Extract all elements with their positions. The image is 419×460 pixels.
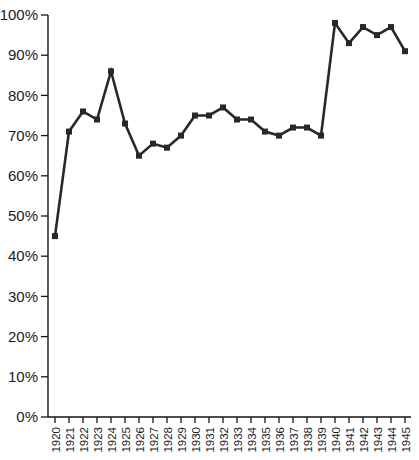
data-point (192, 113, 198, 119)
x-axis-label: 1933 (232, 427, 244, 453)
data-point (206, 113, 212, 119)
x-axis-label: 1927 (148, 427, 160, 453)
line-chart-figure: 0%10%20%30%40%50%60%70%80%90%100%1920192… (0, 0, 419, 460)
chart-svg: 0%10%20%30%40%50%60%70%80%90%100%1920192… (0, 0, 419, 460)
data-point (164, 145, 170, 151)
data-point (360, 24, 366, 30)
data-point (66, 129, 72, 135)
x-axis-label: 1926 (134, 427, 146, 453)
y-axis-label: 30% (8, 288, 38, 305)
data-point (136, 153, 142, 159)
x-axis-label: 1930 (190, 427, 202, 453)
data-point (304, 125, 310, 131)
y-axis-label: 40% (8, 247, 38, 264)
data-point (150, 141, 156, 147)
data-point (388, 24, 394, 30)
data-point (262, 129, 268, 135)
data-point (276, 133, 282, 139)
data-point (318, 133, 324, 139)
data-point (108, 68, 114, 74)
y-axis-label: 20% (8, 328, 38, 345)
data-point (248, 117, 254, 123)
y-axis-label: 100% (0, 6, 38, 23)
data-point (290, 125, 296, 131)
y-axis-label: 0% (16, 408, 38, 425)
x-axis-label: 1921 (64, 427, 76, 453)
x-axis-label: 1937 (288, 427, 300, 453)
y-axis-label: 10% (8, 368, 38, 385)
data-point (52, 233, 58, 239)
x-axis-label: 1935 (260, 427, 272, 453)
x-axis-label: 1940 (330, 427, 342, 453)
x-axis-label: 1936 (274, 427, 286, 453)
data-point (374, 32, 380, 38)
x-axis-label: 1944 (386, 426, 398, 452)
x-axis-label: 1939 (316, 427, 328, 453)
x-axis-label: 1922 (78, 427, 90, 453)
x-axis-label: 1932 (218, 427, 230, 453)
x-axis-label: 1941 (344, 427, 356, 453)
y-axis-label: 90% (8, 46, 38, 63)
data-point (178, 133, 184, 139)
data-point (122, 121, 128, 127)
data-point (332, 20, 338, 26)
x-axis-label: 1938 (302, 427, 314, 453)
x-axis-label: 1924 (106, 426, 118, 452)
x-axis-label: 1923 (92, 427, 104, 453)
data-line (55, 23, 405, 236)
y-axis-label: 80% (8, 87, 38, 104)
y-axis-label: 50% (8, 207, 38, 224)
data-point (346, 40, 352, 46)
x-axis-label: 1920 (50, 427, 62, 453)
data-point (94, 117, 100, 123)
x-axis-label: 1942 (358, 427, 370, 453)
x-axis-label: 1943 (372, 427, 384, 453)
x-axis-label: 1945 (400, 427, 412, 453)
y-axis-label: 70% (8, 127, 38, 144)
x-axis-label: 1929 (176, 427, 188, 453)
x-axis-label: 1931 (204, 427, 216, 453)
x-axis-label: 1925 (120, 427, 132, 453)
x-axis-label: 1934 (246, 426, 258, 452)
data-point (80, 108, 86, 114)
data-point (220, 104, 226, 110)
data-point (234, 117, 240, 123)
data-point (402, 48, 408, 54)
x-axis-label: 1928 (162, 427, 174, 453)
y-axis-label: 60% (8, 167, 38, 184)
